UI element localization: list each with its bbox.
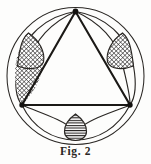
shaded-region-bottom (65, 114, 87, 141)
shaded-region-left (6, 26, 58, 112)
vertex-dot-left (19, 102, 24, 107)
figure-container: Fig. 2 (0, 0, 151, 164)
geometry-diagram (0, 0, 151, 146)
figure-caption: Fig. 2 (0, 145, 151, 157)
vertex-dot-right (127, 102, 132, 107)
vertex-dot-top (73, 9, 79, 15)
